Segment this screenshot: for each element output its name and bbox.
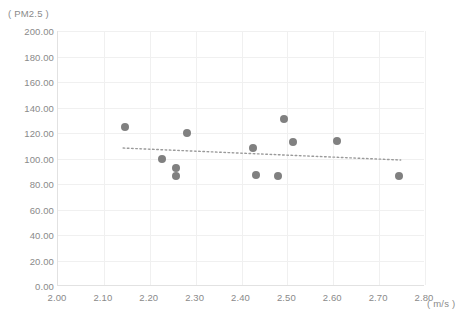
- gridline-vertical: [104, 31, 105, 285]
- y-axis-tick-labels: 0.0020.0040.0060.0080.00100.00120.00140.…: [0, 31, 54, 286]
- gridline-vertical: [333, 31, 334, 285]
- data-point: [183, 129, 191, 137]
- data-point: [395, 172, 403, 180]
- y-axis-tick-label: 20.00: [0, 255, 54, 266]
- data-point: [252, 171, 260, 179]
- y-axis-tick-label: 60.00: [0, 204, 54, 215]
- x-axis-tick-labels: 2.002.102.202.302.402.502.602.702.80: [0, 292, 471, 308]
- gridline-vertical: [379, 31, 380, 285]
- data-point: [274, 172, 282, 180]
- data-point: [249, 144, 257, 152]
- y-axis-tick-label: 40.00: [0, 230, 54, 241]
- y-axis-tick-label: 100.00: [0, 153, 54, 164]
- gridline-vertical: [196, 31, 197, 285]
- data-point: [333, 137, 341, 145]
- data-point: [172, 172, 180, 180]
- gridline-vertical: [287, 31, 288, 285]
- y-axis-tick-label: 80.00: [0, 179, 54, 190]
- plot-area: [57, 31, 424, 286]
- data-point: [158, 155, 166, 163]
- y-axis-unit-label: ( PM2.5 ): [8, 8, 49, 19]
- data-point: [172, 164, 180, 172]
- y-axis-tick-label: 0.00: [0, 281, 54, 292]
- data-point: [121, 123, 129, 131]
- gridline-vertical: [242, 31, 243, 285]
- data-point: [289, 138, 297, 146]
- y-axis-tick-label: 120.00: [0, 128, 54, 139]
- y-axis-tick-label: 180.00: [0, 51, 54, 62]
- scatter-chart: ( PM2.5 ) 0.0020.0040.0060.0080.00100.00…: [0, 0, 471, 322]
- gridline-vertical: [425, 31, 426, 285]
- x-axis-unit-label: ( m/s ): [427, 298, 455, 309]
- data-point: [280, 115, 288, 123]
- y-axis-tick-label: 160.00: [0, 77, 54, 88]
- y-axis-tick-label: 200.00: [0, 26, 54, 37]
- y-axis-tick-label: 140.00: [0, 102, 54, 113]
- gridline-vertical: [150, 31, 151, 285]
